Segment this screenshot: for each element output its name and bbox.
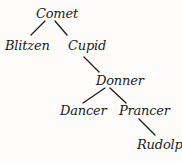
node-rudolph: Rudolph <box>137 138 182 152</box>
node-blitzen: Blitzen <box>5 39 50 53</box>
edge-comet-cupid <box>55 21 67 35</box>
node-dancer: Dancer <box>60 104 107 118</box>
edge-donner-dancer <box>83 88 105 103</box>
edge-comet-blitzen <box>31 21 45 35</box>
node-prancer: Prancer <box>119 104 170 118</box>
node-donner: Donner <box>96 74 144 88</box>
edge-prancer-rudolph <box>139 119 155 135</box>
node-cupid: Cupid <box>68 39 106 53</box>
tree-diagram: Comet Blitzen Cupid Donner Dancer Prance… <box>0 0 182 162</box>
edge-donner-prancer <box>110 88 126 103</box>
edge-cupid-donner <box>84 57 99 72</box>
node-comet: Comet <box>36 7 78 21</box>
